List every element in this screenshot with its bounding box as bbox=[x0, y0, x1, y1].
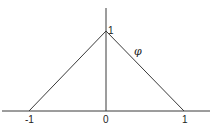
x-tick-neg1: -1 bbox=[25, 114, 34, 125]
x-tick-0: 0 bbox=[103, 114, 109, 125]
x-tick-1: 1 bbox=[182, 114, 188, 125]
phi-label: φ bbox=[134, 45, 142, 58]
peak-label: 1 bbox=[108, 25, 114, 36]
hat-function-diagram: 1 φ -1 0 1 bbox=[0, 0, 213, 134]
